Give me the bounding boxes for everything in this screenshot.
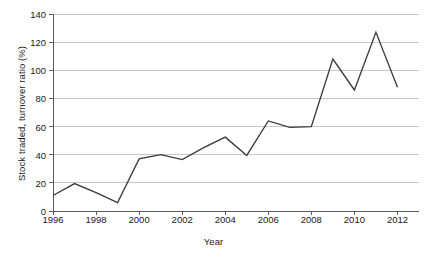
axis-lines: [53, 14, 419, 211]
data-series-line: [53, 32, 397, 202]
gridlines: [53, 14, 419, 183]
tick-marks: [49, 14, 397, 215]
plot-area: [0, 0, 427, 257]
line-chart: Stock traded, turnover ratio (%) Year 02…: [0, 0, 427, 257]
